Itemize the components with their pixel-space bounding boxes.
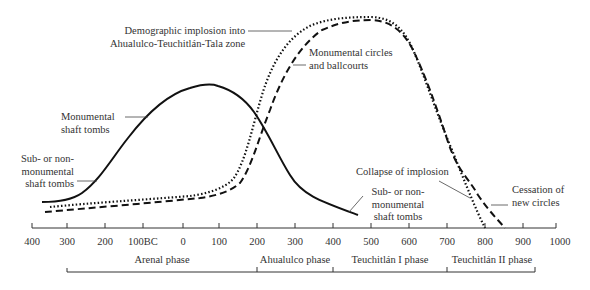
x-tick-label: 300 [287, 236, 303, 247]
annotation-collapse: Collapse of implosion [356, 166, 449, 179]
annotation-sub-shaft-tombs-left: Sub- or non- monumental shaft tombs [10, 153, 74, 191]
x-tick-label: 800 [477, 236, 493, 247]
annotation-sub-right-line2: monumental [364, 199, 432, 212]
x-tick-label: 300 [59, 236, 75, 247]
annotation-mon-tombs-line1: Monumental [61, 111, 115, 124]
annotation-collapse-line1: Collapse of implosion [356, 166, 449, 179]
annotation-sub-left-line1: Sub- or non- [10, 153, 74, 166]
x-tick-label: 900 [515, 236, 531, 247]
annotation-sub-left-line2: monumental [10, 166, 74, 179]
annotation-circles: Monumental circles and ballcourts [309, 47, 393, 72]
x-tick-label: 400 [325, 236, 341, 247]
annotation-sub-shaft-tombs-right: Sub- or non- monumental shaft tombs [364, 186, 432, 224]
annotation-sub-right-line3: shaft tombs [364, 211, 432, 224]
series-shaft-tombs-solid [42, 85, 358, 215]
phase-bracket [67, 267, 535, 272]
x-tick-label: 700 [439, 236, 455, 247]
x-tick-label: 100 [211, 236, 227, 247]
x-tick-label: 200 [97, 236, 113, 247]
x-tick-label: 0 [180, 236, 185, 247]
annotation-sub-left-line3: shaft tombs [10, 178, 74, 191]
annotation-monumental-shaft-tombs: Monumental shaft tombs [61, 111, 115, 136]
annotation-implosion-line2: Ahualulco-Teuchitlán-Tala zone [110, 38, 245, 51]
x-axis [32, 223, 556, 228]
phase-label-teuchitlan-1: Teuchitlán I phase [352, 254, 429, 265]
annotation-cessation-line2: new circles [512, 197, 564, 210]
phase-label-ahualulco: Ahualulco phase [260, 254, 330, 265]
annotation-sub-right-line1: Sub- or non- [364, 186, 432, 199]
annotation-mon-tombs-line2: shaft tombs [61, 124, 115, 137]
phase-label-arenal: Arenal phase [134, 254, 189, 265]
x-tick-label: 1000 [550, 236, 571, 247]
annotation-cessation: Cessation of new circles [512, 184, 564, 209]
annotation-circles-line1: Monumental circles [309, 47, 393, 60]
x-tick-label: 400 [24, 236, 40, 247]
x-tick-label: 500 [363, 236, 379, 247]
phase-label-teuchitlan-2: Teuchitlán II phase [452, 254, 532, 265]
annotation-implosion: Demographic implosion into Ahualulco-Teu… [110, 25, 245, 50]
annotation-implosion-line1: Demographic implosion into [110, 25, 245, 38]
x-tick-label: 200 [249, 236, 265, 247]
x-tick-label: 600 [401, 236, 417, 247]
annotation-circles-line2: and ballcourts [309, 60, 393, 73]
x-tick-label: 100BC [128, 236, 158, 247]
annotation-cessation-line1: Cessation of [512, 184, 564, 197]
